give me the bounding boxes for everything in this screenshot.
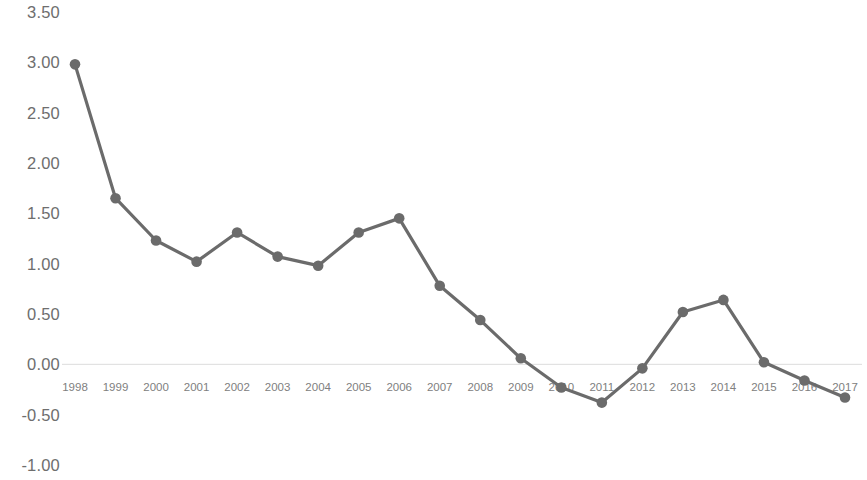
data-point-marker xyxy=(353,227,364,238)
series-line xyxy=(75,64,845,402)
line-chart: 3.503.002.502.001.501.000.500.00-0.50-1.… xyxy=(0,0,867,480)
data-point-marker xyxy=(313,260,324,271)
data-point-marker xyxy=(272,251,283,262)
data-point-marker xyxy=(718,295,729,306)
data-point-marker xyxy=(840,392,851,403)
data-point-marker xyxy=(110,193,121,204)
data-point-marker xyxy=(475,315,486,326)
data-point-marker xyxy=(191,256,202,267)
data-point-marker xyxy=(637,363,648,374)
data-point-marker xyxy=(597,397,608,408)
data-point-marker xyxy=(556,382,567,393)
data-point-marker xyxy=(678,307,689,318)
data-point-marker xyxy=(799,375,810,386)
plot-area xyxy=(0,0,867,480)
data-point-marker xyxy=(434,281,445,292)
data-point-marker xyxy=(70,59,81,70)
data-point-marker xyxy=(515,353,526,364)
series-markers xyxy=(70,59,851,408)
data-point-marker xyxy=(151,235,162,246)
data-point-marker xyxy=(759,357,770,368)
data-point-marker xyxy=(232,227,243,238)
data-point-marker xyxy=(394,213,405,224)
